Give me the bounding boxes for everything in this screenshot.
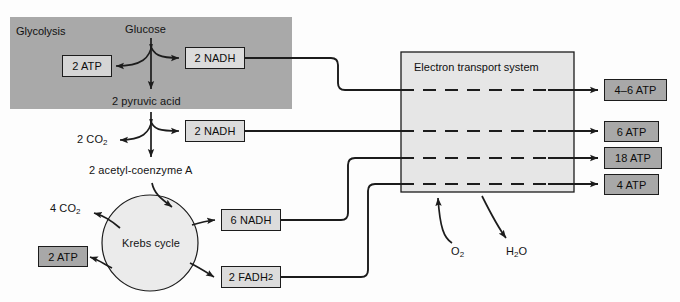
glycolysis-nadh-box: 2 NADH <box>185 47 245 69</box>
krebs-fadh2-arrow <box>190 263 214 277</box>
glucose-label: Glucose <box>125 24 166 35</box>
krebs-nadh-box: 6 NADH <box>221 209 281 231</box>
co2-krebs-label: 4 CO2 <box>50 203 81 216</box>
oxygen-input-arrow <box>438 198 452 243</box>
connector-krebs-nadh-to-ets <box>281 158 401 220</box>
glycolysis-region-label: Glycolysis <box>16 25 66 37</box>
glycolysis-atp-box: 2 ATP <box>62 55 112 77</box>
pyruvic-acid-label: 2 pyruvic acid <box>112 96 181 107</box>
pyruvate-co2-branch-arrow <box>120 119 152 140</box>
ets-atp-output-box-2: 6 ATP <box>604 121 659 142</box>
krebs-atp-box: 2 ATP <box>38 246 88 267</box>
acetyl-coenzyme-a-label: 2 acetyl-coenzyme A <box>89 165 192 176</box>
oxygen-label: O2 <box>451 246 464 259</box>
krebs-nadh-arrow <box>192 220 215 225</box>
water-output-arrow <box>482 196 506 238</box>
pyruvate-nadh-branch-arrow <box>150 119 179 131</box>
ets-atp-output-box-4: 4 ATP <box>604 174 659 195</box>
ets-atp-output-box-3: 18 ATP <box>604 147 662 169</box>
pyruvate-nadh-box: 2 NADH <box>185 120 245 142</box>
ets-atp-output-box-1: 4–6 ATP <box>604 79 667 101</box>
connector-krebs-fadh2-to-ets <box>281 184 401 277</box>
co2-pyruvate-label: 2 CO2 <box>77 134 108 147</box>
krebs-fadh2-box: 2 FADH2 <box>221 266 281 288</box>
electron-transport-region-label: Electron transport system <box>414 61 539 73</box>
electron-transport-region <box>401 52 574 192</box>
water-label: H2O <box>506 246 527 259</box>
diagram-canvas <box>0 0 680 302</box>
krebs-cycle-label: Krebs cycle <box>122 238 180 249</box>
cellular-respiration-diagram: Glycolysis Electron transport system Kre… <box>0 0 680 302</box>
